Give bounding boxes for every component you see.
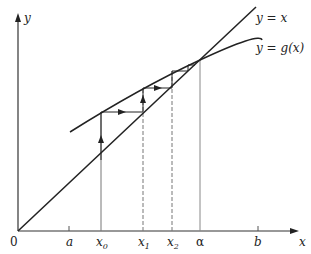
origin-label: 0 <box>10 235 18 249</box>
tick-label-x2: x2 <box>167 235 179 251</box>
x-axis-label: x <box>299 235 306 249</box>
tick-label-x1: x1 <box>138 235 150 251</box>
arrow-up-icon <box>98 135 104 143</box>
fixed-point-iteration-diagram: y x 0 y = x y = g(x) a x0 x1 x2 α b <box>0 0 311 254</box>
g-curve-label: y = g(x) <box>255 41 305 55</box>
y-axis-arrow-icon <box>15 13 21 22</box>
identity-line <box>18 7 256 231</box>
arrow-right-icon <box>118 109 126 115</box>
y-axis-label: y <box>23 11 31 25</box>
tick-label-b: b <box>254 235 262 249</box>
tick-label-alpha: α <box>196 235 204 249</box>
tick-label-x0: x0 <box>96 235 108 251</box>
diagram-canvas: y x 0 y = x y = g(x) a x0 x1 x2 α b <box>0 0 311 254</box>
g-curve <box>70 38 262 132</box>
arrow-up-icon <box>140 95 146 103</box>
tick-label-a: a <box>66 235 73 249</box>
identity-line-label: y = x <box>255 11 287 25</box>
x-axis-arrow-icon <box>290 228 299 234</box>
arrow-right-icon <box>154 85 162 91</box>
